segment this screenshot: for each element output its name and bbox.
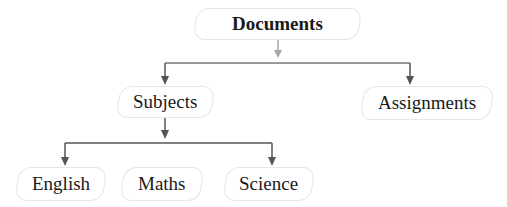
node-documents-label: Documents bbox=[232, 13, 323, 35]
arrow-to-assignments-icon bbox=[406, 76, 414, 85]
node-documents: Documents bbox=[193, 8, 362, 40]
node-science: Science bbox=[223, 167, 316, 201]
level1-connector bbox=[161, 63, 414, 85]
root-connector bbox=[274, 40, 282, 58]
node-subjects-label: Subjects bbox=[133, 91, 197, 113]
node-maths-label: Maths bbox=[138, 173, 186, 195]
node-english: English bbox=[15, 167, 108, 201]
node-subjects: Subjects bbox=[116, 86, 215, 118]
subjects-connector bbox=[161, 117, 169, 139]
node-english-label: English bbox=[32, 173, 90, 195]
level2-connector bbox=[61, 143, 276, 166]
node-assignments: Assignments bbox=[360, 86, 495, 120]
node-maths: Maths bbox=[120, 167, 205, 201]
node-science-label: Science bbox=[239, 173, 298, 195]
arrow-to-science-icon bbox=[268, 157, 276, 166]
arrow-to-subjects-icon bbox=[161, 76, 169, 85]
arrow-to-english-icon bbox=[61, 157, 69, 166]
node-assignments-label: Assignments bbox=[378, 92, 476, 114]
